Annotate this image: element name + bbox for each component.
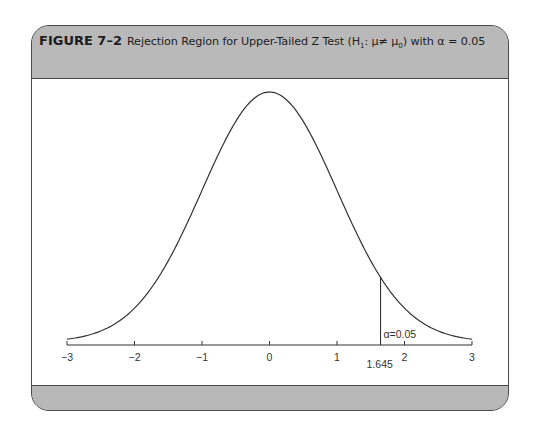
x-tick-label: 0 — [267, 351, 273, 363]
normal-curve — [67, 92, 472, 339]
alpha-label: α=0.05 — [384, 328, 417, 340]
normal-curve-plot: −3−2−10123 α=0.05 1.645 — [0, 0, 537, 432]
x-tick-label: 3 — [469, 351, 475, 363]
critical-value-label: 1.645 — [367, 358, 393, 370]
x-tick-label: 2 — [402, 351, 408, 363]
x-tick-label: −3 — [61, 351, 73, 363]
x-tick-label: −1 — [196, 351, 208, 363]
x-axis-ticks: −3−2−10123 — [61, 341, 475, 363]
x-tick-label: 1 — [334, 351, 340, 363]
x-tick-label: −2 — [129, 351, 141, 363]
